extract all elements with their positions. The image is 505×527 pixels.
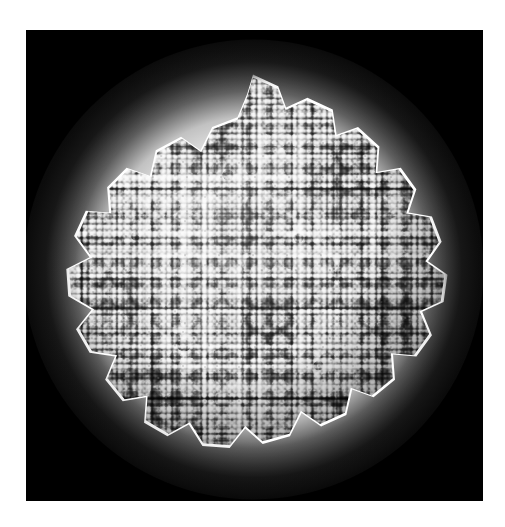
virus-capsid-image-panel: [26, 30, 483, 501]
pentamer-ring-feature: [165, 326, 203, 364]
pentamer-ring-feature: [303, 349, 335, 381]
capsid-stage: [62, 78, 445, 461]
pentamer-ring-feature: [211, 158, 245, 192]
figure-page: [0, 0, 505, 527]
pentamer-ring-feature: [123, 223, 149, 249]
pentamer-ring-feature: [284, 223, 314, 253]
